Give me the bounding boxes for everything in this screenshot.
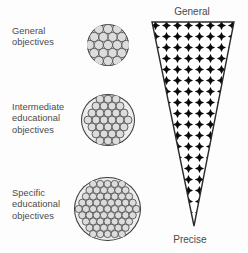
cell-pattern [87, 24, 129, 66]
blob-intermediate-objectives [81, 94, 135, 146]
cell-pattern [81, 94, 135, 146]
blob-specific-objectives [74, 177, 141, 241]
label-intermediate-educational-objectives: Intermediate educational objectives [12, 102, 64, 136]
blob-general-objectives [87, 24, 129, 66]
label-specific-educational-objectives: Specific educational objectives [12, 188, 60, 222]
objectives-diagram: General objectives Intermediate educatio… [0, 0, 248, 253]
cone-pattern-fill [150, 20, 236, 234]
cell-pattern [74, 177, 141, 241]
cone-shape [150, 20, 236, 234]
cone-label-general: General [132, 6, 248, 18]
cone-label-precise: Precise [130, 234, 248, 246]
label-general-objectives: General objectives [12, 26, 54, 49]
